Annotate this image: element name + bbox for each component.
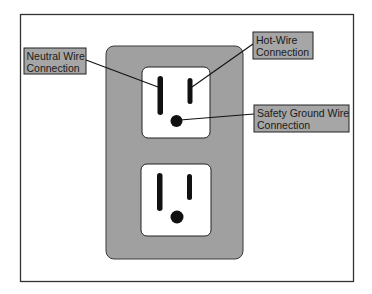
safety-ground-wire-label: Safety Ground Wire Connection (254, 105, 349, 132)
label-line-1: Neutral Wire (27, 50, 86, 62)
outlet-diagram: Neutral Wire Connection Hot-Wire Connect… (0, 0, 372, 294)
lower-receptacle (141, 164, 211, 236)
hot-slot-icon (188, 78, 193, 104)
label-line-2: Connection (27, 62, 80, 74)
hot-wire-label: Hot-Wire Connection (253, 32, 313, 59)
label-line-2: Connection (256, 46, 309, 58)
neutral-slot-icon (158, 76, 164, 115)
label-line-1: Hot-Wire (256, 34, 298, 46)
receptacle-face (142, 67, 210, 138)
label-line-2: Connection (257, 119, 310, 131)
hot-slot-icon (187, 174, 192, 200)
neutral-slot-icon (157, 173, 163, 211)
neutral-wire-label: Neutral Wire Connection (24, 48, 86, 74)
ground-hole-icon (171, 115, 183, 127)
upper-receptacle (142, 67, 210, 138)
label-line-1: Safety Ground Wire (257, 107, 349, 119)
ground-hole-icon (171, 211, 184, 224)
receptacle-face (141, 164, 211, 236)
